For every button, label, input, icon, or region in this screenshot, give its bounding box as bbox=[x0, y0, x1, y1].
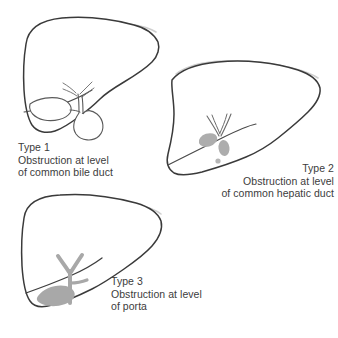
label-type-3-line2: Obstruction at level bbox=[111, 288, 202, 301]
label-type-1-title: Type 1 bbox=[18, 141, 113, 154]
liver-1-dilated-bile-duct bbox=[74, 111, 103, 140]
label-type-3: Type 3 Obstruction at level of porta bbox=[111, 275, 202, 313]
liver-2-marker-dot bbox=[215, 158, 220, 163]
label-type-2-line3: of common hepatic duct bbox=[221, 187, 334, 200]
label-type-2-title: Type 2 bbox=[221, 162, 334, 175]
liver-1-gallbladder bbox=[30, 98, 71, 121]
label-type-1: Type 1 Obstruction at level of common bi… bbox=[18, 141, 113, 179]
label-type-2: Type 2 Obstruction at level of common he… bbox=[221, 162, 334, 200]
label-type-2-line2: Obstruction at level bbox=[221, 175, 334, 188]
label-type-1-line3: of common bile duct bbox=[18, 166, 113, 179]
label-type-3-title: Type 3 bbox=[111, 275, 202, 288]
label-type-3-line3: of porta bbox=[111, 300, 202, 313]
label-type-1-line2: Obstruction at level bbox=[18, 154, 113, 167]
